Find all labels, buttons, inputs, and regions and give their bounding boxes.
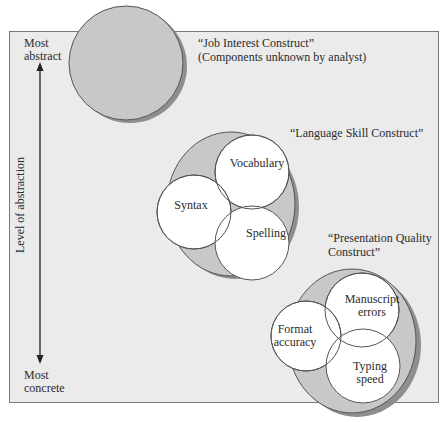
typing-speed-line2: speed bbox=[345, 373, 395, 386]
presentation-quality-note: “Presentation Quality Construct” bbox=[328, 231, 432, 259]
job-interest-construct bbox=[69, 6, 187, 123]
most-abstract-label: Most abstract bbox=[24, 37, 61, 63]
abstraction-axis-arrow bbox=[37, 62, 44, 364]
typing-speed-label: Typing speed bbox=[345, 360, 395, 386]
manuscript-errors-label: Manuscript errors bbox=[342, 293, 402, 319]
most-concrete-line2: concrete bbox=[24, 382, 65, 395]
presentation-quality-title-line2: Construct” bbox=[328, 245, 432, 259]
syntax-label: Syntax bbox=[166, 199, 216, 212]
most-abstract-line2: abstract bbox=[24, 50, 61, 63]
job-interest-note: “Job Interest Construct” (Components unk… bbox=[198, 36, 366, 64]
job-interest-title: “Job Interest Construct” bbox=[198, 36, 366, 50]
presentation-quality-title-line1: “Presentation Quality bbox=[328, 231, 432, 245]
level-of-abstraction-label: Level of abstraction bbox=[13, 135, 28, 275]
spelling-label: Spelling bbox=[236, 227, 296, 240]
format-accuracy-line2: accuracy bbox=[270, 336, 320, 349]
format-accuracy-label: Format accuracy bbox=[270, 323, 320, 349]
job-interest-subtitle: (Components unknown by analyst) bbox=[198, 50, 366, 64]
component-spelling bbox=[215, 206, 289, 280]
language-skill-title: “Language Skill Construct” bbox=[290, 126, 423, 140]
most-concrete-label: Most concrete bbox=[24, 369, 65, 395]
manuscript-errors-line2: errors bbox=[342, 306, 402, 319]
vocabulary-label: Vocabulary bbox=[222, 157, 292, 170]
